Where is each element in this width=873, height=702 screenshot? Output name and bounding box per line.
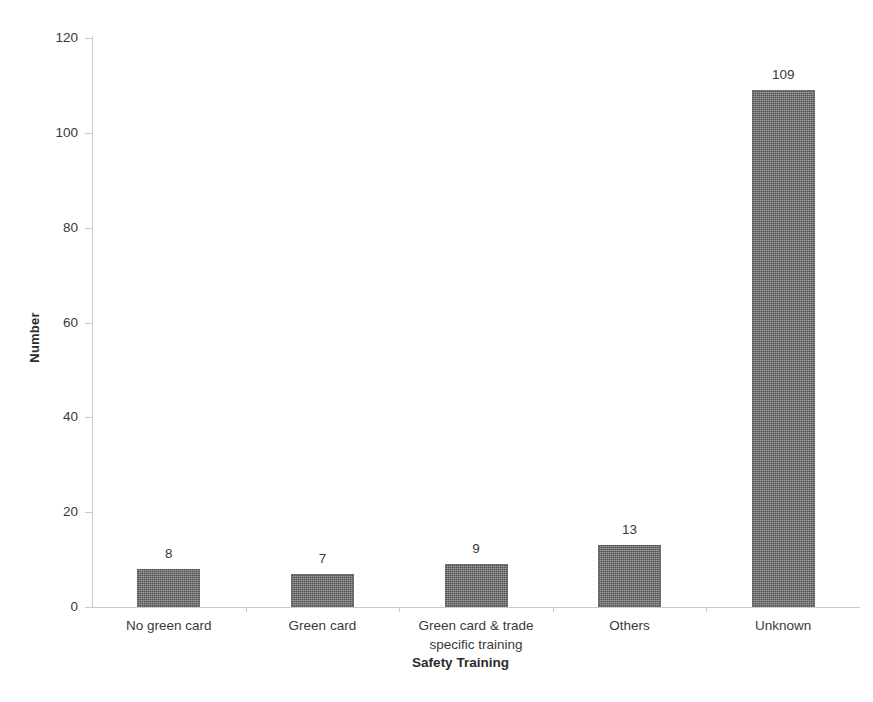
bar bbox=[598, 545, 661, 607]
x-axis-tick bbox=[399, 607, 400, 612]
y-axis-title: Number bbox=[24, 292, 44, 382]
y-axis-tick bbox=[85, 323, 92, 324]
bar-chart: Number 020406080100120 87913109 No green… bbox=[0, 0, 873, 702]
y-axis-tick bbox=[85, 38, 92, 39]
y-axis-tick bbox=[85, 417, 92, 418]
bar-value-label: 8 bbox=[129, 547, 209, 561]
y-axis-tick-label: 120 bbox=[38, 31, 78, 45]
x-axis-line bbox=[92, 607, 860, 608]
x-axis-tick bbox=[553, 607, 554, 612]
x-axis-category-label: Unknown bbox=[693, 616, 873, 635]
y-axis-tick-label: 80 bbox=[38, 221, 78, 235]
x-axis-title-text: Safety Training bbox=[412, 655, 509, 670]
y-axis-tick-label: 0 bbox=[38, 600, 78, 614]
y-axis-tick bbox=[85, 133, 92, 134]
y-axis-tick bbox=[85, 512, 92, 513]
bar-value-label: 9 bbox=[436, 542, 516, 556]
y-axis-tick-label: 60 bbox=[38, 316, 78, 330]
y-axis-tick-label-text: 120 bbox=[38, 31, 78, 45]
bar-value-label: 109 bbox=[743, 68, 823, 82]
y-axis-tick bbox=[85, 228, 92, 229]
x-axis-category-label-line: specific training bbox=[386, 635, 566, 654]
bar-value-label: 13 bbox=[590, 523, 670, 537]
bar bbox=[445, 564, 508, 607]
y-axis-tick-label: 20 bbox=[38, 505, 78, 519]
y-axis-tick-label-text: 80 bbox=[38, 221, 78, 235]
bar bbox=[137, 569, 200, 607]
y-axis-tick-label-text: 60 bbox=[38, 316, 78, 330]
y-axis-tick-label-text: 0 bbox=[38, 600, 78, 614]
y-axis-tick-label-text: 20 bbox=[38, 505, 78, 519]
bar-value-label: 7 bbox=[282, 552, 362, 566]
y-axis-tick-label: 40 bbox=[38, 410, 78, 424]
y-axis-tick bbox=[85, 607, 92, 608]
bar bbox=[752, 90, 815, 607]
x-axis-tick bbox=[246, 607, 247, 612]
y-axis-tick-label: 100 bbox=[38, 126, 78, 140]
x-axis-title: Safety Training bbox=[0, 655, 873, 670]
x-axis-tick bbox=[706, 607, 707, 612]
bars-layer bbox=[92, 38, 860, 607]
bar bbox=[291, 574, 354, 607]
x-axis-category-label-line: Unknown bbox=[693, 616, 873, 635]
y-axis-tick-label-text: 40 bbox=[38, 410, 78, 424]
y-axis-tick-label-text: 100 bbox=[38, 126, 78, 140]
